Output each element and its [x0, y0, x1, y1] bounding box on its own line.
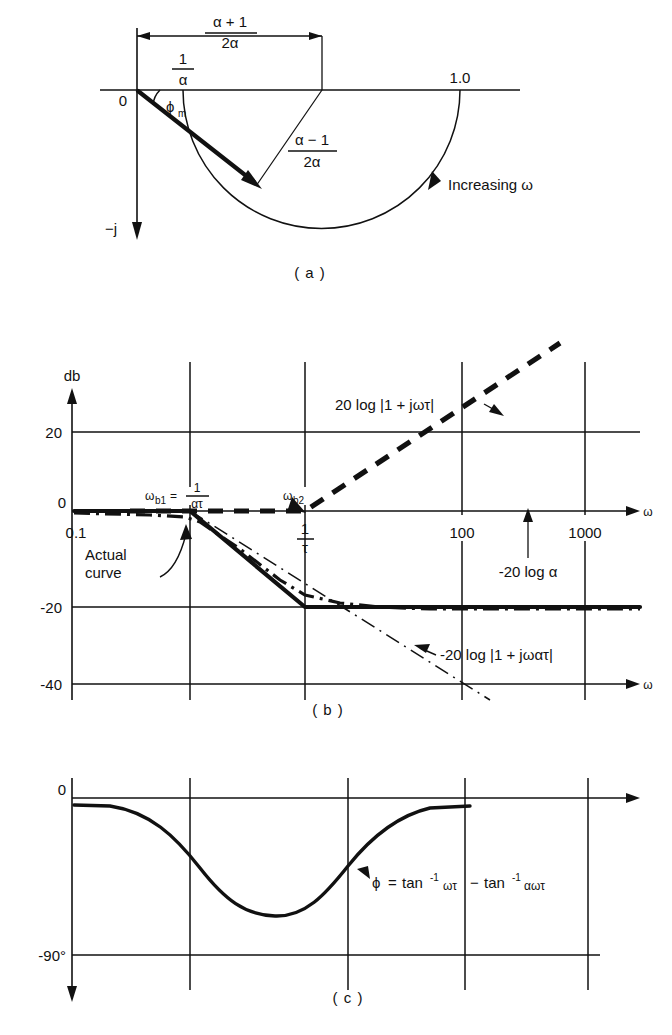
- panel-b-break1-subscript: b1: [155, 495, 167, 506]
- panel-a-dim-denominator: 2α: [221, 34, 238, 51]
- panel-b-numerator-asymptote-label: 20 log |1 + jωτ|: [335, 396, 434, 413]
- panel-b-db-axis-label: db: [64, 367, 81, 384]
- panel-a-minus-j-label: −j: [105, 220, 117, 237]
- panel-c-minus-symbol: −: [470, 874, 479, 891]
- panel-c-tag: ( c ): [333, 989, 364, 1006]
- panel-c-zero-axis-arrowhead: [626, 793, 640, 803]
- panel-b-ytick-20: 20: [45, 424, 62, 441]
- panel-b-break1-numerator: 1: [194, 481, 201, 495]
- panel-b-numerator-leader-arrowhead: [489, 404, 504, 416]
- panel-a-radius-numerator: α − 1: [295, 131, 329, 148]
- panel-a-dim-numerator: α + 1: [213, 13, 247, 30]
- panel-c-annotation-arrowhead: [357, 866, 370, 879]
- panel-a-phi-m-symbol: ϕ: [166, 98, 174, 115]
- panel-c-ytick-minus90: -90°: [38, 947, 66, 964]
- panel-b-omega-label-lower: ω: [643, 678, 652, 692]
- panel-b-gain-drop-arrowhead: [523, 508, 533, 522]
- panel-b-xtick-0p1: 0.1: [66, 524, 87, 541]
- figure-root: α + 1 2α 1 α 1.0 0 ϕ m α − 1: [0, 0, 672, 1035]
- panel-b-xtick-100: 100: [449, 524, 474, 541]
- panel-c-phase-curve: [74, 805, 470, 916]
- panel-a-dimension-arrow-right: [309, 32, 322, 40]
- panel-c-tan-first: tan: [402, 874, 423, 891]
- panel-b-break1-equals: =: [170, 489, 177, 503]
- panel-a-dimension-arrow-left: [137, 32, 150, 40]
- panel-c-ytick-0: 0: [58, 781, 66, 798]
- panel-c-phase-axis-arrowhead: [67, 986, 77, 1002]
- panel-b-lower-axis-arrowhead: [626, 679, 640, 689]
- panel-a-group: α + 1 2α 1 α 1.0 0 ϕ m α − 1: [100, 13, 533, 281]
- panel-c-argument-second: αωτ: [524, 879, 545, 893]
- panel-b-tag: ( b ): [312, 701, 344, 718]
- panel-b-actual-curve-label-line2: curve: [85, 564, 122, 581]
- technical-figure: α + 1 2α 1 α 1.0 0 ϕ m α − 1: [0, 0, 672, 1035]
- panel-a-one-over-alpha-denominator: α: [179, 71, 188, 88]
- panel-b-resultant-asymptote: [74, 511, 640, 607]
- panel-a-imaginary-arrowhead: [132, 222, 142, 240]
- panel-c-argument-first: ωτ: [443, 879, 457, 893]
- panel-a-one-over-alpha-numerator: 1: [179, 50, 187, 67]
- panel-b-db-axis-arrowhead: [67, 388, 77, 404]
- panel-c-exponent-second: -1: [512, 872, 521, 883]
- panel-a-origin-label: 0: [119, 92, 127, 109]
- panel-b-ytick-minus20: -20: [40, 599, 62, 616]
- panel-c-exponent-first: -1: [430, 872, 439, 883]
- panel-b-actual-curve-leader: [160, 534, 186, 577]
- panel-a-tag: ( a ): [294, 264, 326, 281]
- panel-b-actual-curve: [74, 513, 640, 609]
- panel-b-xtick-1-over-tau-denominator: τ: [302, 539, 308, 556]
- panel-b-break1-symbol: ω: [145, 489, 154, 503]
- panel-a-increasing-omega-arrowhead: [428, 171, 441, 190]
- panel-a-max-phase-phasor: [138, 91, 254, 182]
- panel-a-increasing-omega-label: Increasing ω: [448, 176, 533, 193]
- panel-b-ytick-0: 0: [58, 494, 66, 511]
- panel-b-denominator-asymptote-label: -20 log |1 + jωατ|: [440, 646, 553, 663]
- panel-b-ytick-minus40: -40: [40, 676, 62, 693]
- panel-a-unity-label: 1.0: [450, 69, 471, 86]
- panel-b-actual-curve-label-line1: Actual: [85, 546, 127, 563]
- panel-c-equals-symbol: =: [388, 874, 397, 891]
- panel-b-omega-label-upper: ω: [643, 505, 652, 519]
- panel-a-phi-m-subscript: m: [178, 108, 186, 119]
- panel-a-radius-denominator: 2α: [303, 153, 320, 170]
- panel-b-gain-drop-label: -20 log α: [499, 563, 558, 580]
- panel-c-annotation-group: ϕ = tan -1 ωτ − tan -1 αωτ: [372, 872, 545, 893]
- panel-c-group: 0 -90° ϕ = tan -1 ωτ − tan -1 αωτ ( c ): [38, 778, 640, 1006]
- panel-b-group: 20 0 -20 -40 db ω ω 0.1 100 1000 1 τ ω b…: [40, 343, 652, 718]
- panel-b-xtick-1-over-tau-numerator: 1: [301, 520, 309, 537]
- panel-b-xtick-1000: 1000: [568, 524, 601, 541]
- panel-c-tan-second: tan: [484, 874, 505, 891]
- panel-c-phi-symbol: ϕ: [372, 874, 380, 891]
- panel-b-omega-axis-arrowhead: [626, 506, 640, 516]
